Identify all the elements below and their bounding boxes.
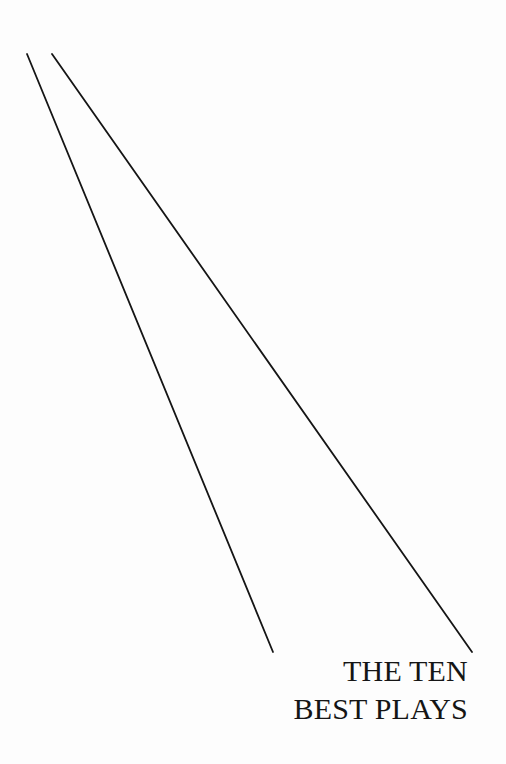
left-diagonal-line — [27, 54, 273, 652]
title-line-1: THE TEN — [293, 652, 468, 690]
book-title: THE TEN BEST PLAYS — [293, 652, 468, 728]
title-page: THE TEN BEST PLAYS — [0, 0, 506, 764]
title-line-2: BEST PLAYS — [293, 690, 468, 728]
diverging-lines-decoration — [0, 0, 506, 764]
right-diagonal-line — [52, 54, 472, 652]
